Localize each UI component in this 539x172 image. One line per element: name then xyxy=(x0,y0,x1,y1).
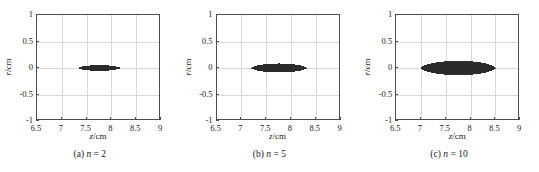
y-tick-label: 0.5 xyxy=(375,36,392,45)
x-tick-mark xyxy=(240,117,241,120)
y-tick-label: 0 xyxy=(16,63,33,72)
x-tick-mark xyxy=(445,117,446,120)
x-tick-mark xyxy=(160,117,161,120)
y-tick-label: 1 xyxy=(196,10,213,19)
y-tick-label: -1 xyxy=(196,116,213,125)
data-region-b xyxy=(217,15,339,119)
y-tick-label: -1 xyxy=(16,116,33,125)
y-tick-label: -1 xyxy=(375,116,392,125)
x-tick-mark xyxy=(265,117,266,120)
x-tick-mark xyxy=(519,117,520,120)
y-tick-label: 0.5 xyxy=(16,36,33,45)
y-tick-mark xyxy=(395,67,398,68)
figure-three-panel-plot: r/cm z/cm (a) n = 2 6.577.588.59-1-0.500… xyxy=(0,0,539,172)
x-tick-mark xyxy=(290,117,291,120)
x-tick-label: 7.5 xyxy=(260,124,271,133)
plot-axes-a xyxy=(36,14,160,120)
y-tick-mark xyxy=(216,14,219,15)
subplot-caption-c: (c) n = 10 xyxy=(359,150,539,160)
x-tick-label: 8 xyxy=(288,124,292,133)
y-axis-label-a: r/cm xyxy=(4,58,13,75)
x-axis-label-b: z/cm xyxy=(216,132,340,141)
y-tick-mark xyxy=(395,41,398,42)
x-tick-mark xyxy=(110,117,111,120)
y-tick-label: 1 xyxy=(16,10,33,19)
x-tick-label: 7.5 xyxy=(439,124,450,133)
y-tick-label: -0.5 xyxy=(375,89,392,98)
y-tick-mark xyxy=(216,94,219,95)
y-tick-label: -0.5 xyxy=(196,89,213,98)
x-tick-label: 9 xyxy=(337,124,341,133)
y-tick-mark xyxy=(36,41,39,42)
y-tick-mark xyxy=(36,94,39,95)
x-tick-label: 6.5 xyxy=(390,124,401,133)
x-axis-label-a: z/cm xyxy=(36,132,160,141)
y-tick-label: 0 xyxy=(375,63,392,72)
y-tick-mark xyxy=(216,41,219,42)
y-tick-mark xyxy=(395,94,398,95)
y-tick-mark xyxy=(395,14,398,15)
y-tick-mark xyxy=(395,120,398,121)
subplot-b: r/cm z/cm (b) n = 5 6.577.588.59-1-0.500… xyxy=(180,0,360,172)
x-tick-mark xyxy=(315,117,316,120)
y-tick-mark xyxy=(216,120,219,121)
x-tick-label: 8 xyxy=(108,124,112,133)
x-tick-label: 8 xyxy=(467,124,471,133)
y-tick-mark xyxy=(36,14,39,15)
y-tick-label: -0.5 xyxy=(16,89,33,98)
x-tick-label: 9 xyxy=(158,124,162,133)
y-tick-label: 1 xyxy=(375,10,392,19)
y-tick-mark xyxy=(216,67,219,68)
x-tick-label: 6.5 xyxy=(210,124,221,133)
x-tick-mark xyxy=(61,117,62,120)
x-axis-label-c: z/cm xyxy=(395,132,519,141)
x-tick-label: 8.5 xyxy=(130,124,141,133)
y-tick-label: 0 xyxy=(196,63,213,72)
x-tick-label: 7 xyxy=(59,124,63,133)
subplot-caption-a: (a) n = 2 xyxy=(0,150,180,160)
y-tick-label: 0.5 xyxy=(196,36,213,45)
y-tick-mark xyxy=(36,67,39,68)
x-tick-mark xyxy=(86,117,87,120)
x-tick-label: 7 xyxy=(238,124,242,133)
data-region-c xyxy=(396,15,518,119)
y-tick-mark xyxy=(36,120,39,121)
y-axis-label-c: r/cm xyxy=(363,58,372,75)
subplot-caption-b: (b) n = 5 xyxy=(180,150,360,160)
x-tick-label: 6.5 xyxy=(31,124,42,133)
x-tick-label: 7.5 xyxy=(80,124,91,133)
x-tick-mark xyxy=(340,117,341,120)
x-tick-mark xyxy=(494,117,495,120)
subplot-c: r/cm z/cm (c) n = 10 6.577.588.59-1-0.50… xyxy=(359,0,539,172)
x-tick-label: 8.5 xyxy=(489,124,500,133)
y-axis-label-b: r/cm xyxy=(183,58,192,75)
x-tick-mark xyxy=(135,117,136,120)
x-tick-label: 9 xyxy=(517,124,521,133)
x-tick-label: 8.5 xyxy=(309,124,320,133)
plot-axes-c xyxy=(395,14,519,120)
x-tick-mark xyxy=(420,117,421,120)
plot-axes-b xyxy=(216,14,340,120)
x-tick-label: 7 xyxy=(418,124,422,133)
subplot-a: r/cm z/cm (a) n = 2 6.577.588.59-1-0.500… xyxy=(0,0,180,172)
data-region-a xyxy=(37,15,159,119)
x-tick-mark xyxy=(470,117,471,120)
